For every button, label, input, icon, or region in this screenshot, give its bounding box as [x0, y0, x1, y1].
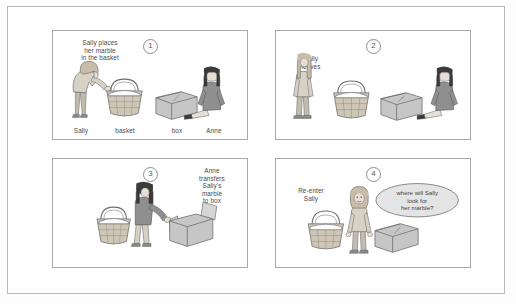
- panel-1-scene: [53, 31, 247, 139]
- object-box-4: [375, 224, 418, 252]
- object-label-basket: basket: [105, 127, 145, 134]
- object-box-2: [381, 93, 422, 120]
- figure-sally-leaving: [293, 53, 313, 119]
- object-label-box: box: [157, 127, 197, 134]
- panel-3-scene: [53, 159, 247, 267]
- panel-grid: 1 Sally places her marble in the basket: [7, 6, 505, 294]
- object-label-sally: Sally: [61, 127, 101, 134]
- page-canvas: 1 Sally places her marble in the basket: [0, 0, 516, 304]
- panel-2: 2 Sally leaves: [275, 30, 471, 140]
- figure-anne-sitting-2: [417, 67, 457, 120]
- panel-4: 4 Re-enter Sally where will Sally look f…: [275, 158, 471, 268]
- speech-bubble-line-1: where will Sally: [395, 189, 439, 196]
- panel-1: 1 Sally places her marble in the basket: [52, 30, 248, 140]
- speech-bubble: where will Sally look for her marble?: [376, 184, 458, 217]
- figure-sally-standing: [346, 186, 373, 253]
- speech-bubble-line-2: look for: [407, 197, 427, 204]
- object-box-open: [170, 202, 217, 246]
- object-basket-3: [97, 207, 130, 244]
- panel-4-scene: where will Sally look for her marble?: [276, 159, 470, 267]
- object-basket-4: [308, 211, 343, 249]
- object-basket-1: [107, 79, 142, 116]
- figure-sally-bending: [72, 61, 110, 117]
- object-basket-2: [334, 81, 369, 118]
- object-label-anne: Anne: [194, 127, 234, 134]
- panel-2-scene: [276, 31, 470, 139]
- panel-3: 3 Anne transfers Sally's marble to box: [52, 158, 248, 268]
- speech-bubble-line-3: her marble?: [401, 204, 434, 211]
- figure-anne-bending: [131, 182, 171, 247]
